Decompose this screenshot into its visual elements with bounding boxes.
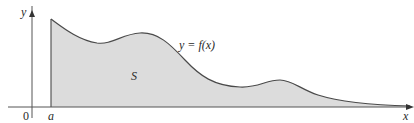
area-diagram: y x 0 a S y = f(x) <box>0 0 414 123</box>
region-s <box>51 19 410 107</box>
x-axis-label: x <box>402 109 409 123</box>
curve-label: y = f(x) <box>178 38 215 52</box>
a-label: a <box>48 109 54 123</box>
y-axis-label: y <box>20 5 27 19</box>
region-s-label: S <box>131 69 137 83</box>
origin-label: 0 <box>23 109 29 123</box>
y-axis-arrow-icon <box>29 10 35 17</box>
